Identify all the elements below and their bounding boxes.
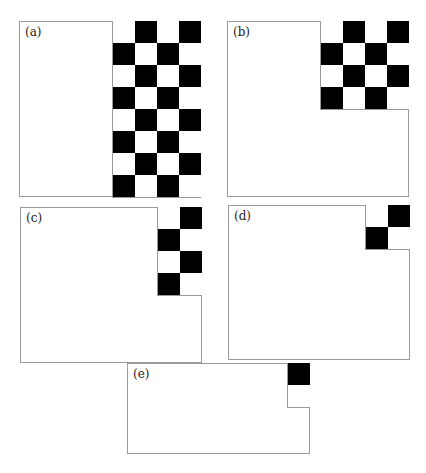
white-square	[179, 175, 201, 197]
white-square	[135, 131, 157, 153]
white-square	[343, 87, 365, 109]
black-square	[321, 43, 343, 65]
white-square	[180, 273, 202, 295]
white-square	[180, 229, 202, 251]
white-square	[113, 65, 135, 87]
panel-d: (d)	[228, 205, 410, 360]
black-square	[179, 21, 201, 43]
panel-a: (a)	[19, 21, 201, 197]
black-square	[366, 227, 388, 249]
white-square	[113, 153, 135, 175]
black-square	[113, 175, 135, 197]
black-square	[387, 21, 409, 43]
white-square	[113, 109, 135, 131]
checkerboard-d	[365, 205, 410, 250]
white-square	[158, 251, 180, 273]
white-square	[135, 43, 157, 65]
white-square	[365, 21, 387, 43]
white-square	[179, 131, 201, 153]
white-square	[343, 43, 365, 65]
black-square	[157, 87, 179, 109]
white-square	[387, 87, 409, 109]
checkerboard-c	[157, 207, 202, 296]
panel-label-c: (c)	[26, 211, 42, 225]
white-square	[321, 65, 343, 87]
black-square	[179, 109, 201, 131]
black-square	[135, 153, 157, 175]
black-square	[113, 43, 135, 65]
black-square	[157, 175, 179, 197]
black-square	[321, 87, 343, 109]
white-square	[179, 87, 201, 109]
black-square	[179, 65, 201, 87]
panel-label-d: (d)	[234, 209, 251, 223]
black-square	[365, 87, 387, 109]
black-square	[343, 21, 365, 43]
white-square	[157, 109, 179, 131]
black-square	[135, 109, 157, 131]
white-square	[365, 65, 387, 87]
white-square	[157, 65, 179, 87]
white-square	[387, 43, 409, 65]
black-square	[179, 153, 201, 175]
checkerboard-e	[287, 363, 310, 408]
white-square	[158, 207, 180, 229]
black-square	[387, 65, 409, 87]
black-square	[388, 205, 410, 227]
black-square	[157, 43, 179, 65]
white-square	[388, 227, 410, 249]
black-square	[113, 87, 135, 109]
panel-label-b: (b)	[233, 25, 250, 39]
black-square	[180, 251, 202, 273]
panel-b: (b)	[227, 21, 409, 197]
checkerboard-a	[112, 21, 201, 198]
white-square	[321, 21, 343, 43]
black-square	[365, 43, 387, 65]
panel-label-e: (e)	[133, 367, 149, 381]
white-square	[157, 21, 179, 43]
black-square	[158, 229, 180, 251]
white-square	[179, 43, 201, 65]
white-square	[366, 205, 388, 227]
panel-label-a: (a)	[25, 25, 42, 39]
white-square	[157, 153, 179, 175]
black-square	[135, 21, 157, 43]
white-square	[288, 385, 310, 407]
checkerboard-b	[320, 21, 409, 110]
white-square	[113, 21, 135, 43]
black-square	[343, 65, 365, 87]
black-square	[158, 273, 180, 295]
white-square	[135, 175, 157, 197]
black-square	[157, 131, 179, 153]
panel-e: (e)	[127, 363, 310, 454]
black-square	[135, 65, 157, 87]
black-square	[113, 131, 135, 153]
black-square	[288, 363, 310, 385]
white-square	[135, 87, 157, 109]
black-square	[180, 207, 202, 229]
panel-c: (c)	[20, 207, 202, 363]
